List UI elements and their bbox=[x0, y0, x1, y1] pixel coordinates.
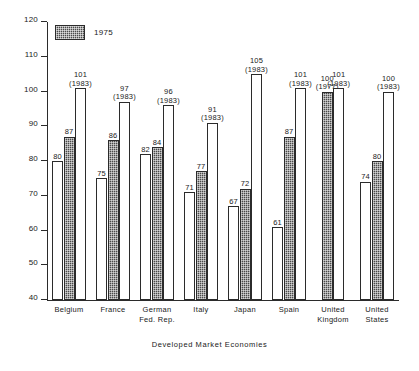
bar: 75 bbox=[96, 178, 107, 300]
y-tick-label: 60 bbox=[0, 224, 38, 233]
y-tick-label: 40 bbox=[0, 293, 38, 302]
bar-group: 828496(1983) bbox=[135, 22, 179, 300]
bar-group: 6187101(1983) bbox=[267, 22, 311, 300]
bar-value-label: 87 bbox=[65, 128, 74, 137]
category-label-spain: Spain bbox=[267, 305, 311, 315]
bar-value-label: 77 bbox=[197, 163, 206, 172]
category-label-line: France bbox=[91, 305, 135, 315]
bar-value-label: 96(1983) bbox=[157, 88, 180, 105]
bar-group: 8087101(1983) bbox=[47, 22, 91, 300]
bar-value-label: 91(1983) bbox=[201, 106, 224, 123]
x-axis-title: Developed Market Economies bbox=[0, 340, 419, 349]
y-tick-label: 90 bbox=[0, 119, 38, 128]
bar-value-label: 72 bbox=[241, 180, 250, 189]
bar-value-label: 61 bbox=[273, 219, 282, 228]
bar-value-label: 100(1983) bbox=[377, 75, 400, 92]
bar-group: 7480100(1983) bbox=[355, 22, 399, 300]
bar-value-label: 101(1983) bbox=[289, 71, 312, 88]
y-tick-label: 110 bbox=[0, 50, 38, 59]
bar-value-label: 80 bbox=[53, 153, 62, 162]
bar: 105(1983) bbox=[251, 74, 262, 300]
y-tick-label: 50 bbox=[0, 258, 38, 267]
bar: 100(1977) bbox=[322, 92, 333, 301]
bar: 96(1983) bbox=[163, 105, 174, 300]
category-label-france: France bbox=[91, 305, 135, 315]
category-label-line: Japan bbox=[223, 305, 267, 315]
category-label-line: Spain bbox=[267, 305, 311, 315]
bar: 67 bbox=[228, 206, 239, 300]
category-label-line: Belgium bbox=[47, 305, 91, 315]
bar-value-label: 84 bbox=[153, 139, 162, 148]
bar: 86 bbox=[108, 140, 119, 300]
bar-value-label: 87 bbox=[285, 128, 294, 137]
bar: 72 bbox=[240, 189, 251, 300]
bar-chart: 405060708090100110120 1975 8087101(1983)… bbox=[0, 0, 419, 371]
bar-value-label: 101(1983) bbox=[69, 71, 92, 88]
bar: 80 bbox=[372, 161, 383, 300]
category-label-line: United bbox=[355, 305, 399, 315]
bar: 61 bbox=[272, 227, 283, 300]
category-label-united-kingdom: UnitedKingdom bbox=[311, 305, 355, 324]
bar: 101(1983) bbox=[75, 88, 86, 300]
bar: 91(1983) bbox=[207, 123, 218, 300]
y-tick-label: 100 bbox=[0, 85, 38, 94]
bar-value-label: 80 bbox=[373, 153, 382, 162]
bar: 80 bbox=[52, 161, 63, 300]
category-label-italy: Italy bbox=[179, 305, 223, 315]
bar: 100(1983) bbox=[383, 92, 394, 301]
bar-value-label: 67 bbox=[229, 198, 238, 207]
bar-group: 758697(1983) bbox=[91, 22, 135, 300]
bar-group: 6772105(1983) bbox=[223, 22, 267, 300]
y-tick-label: 80 bbox=[0, 154, 38, 163]
bar: 97(1983) bbox=[119, 102, 130, 300]
plot-area: 8087101(1983)758697(1983)828496(1983)717… bbox=[47, 22, 399, 300]
bar: 74 bbox=[360, 182, 371, 300]
category-label-japan: Japan bbox=[223, 305, 267, 315]
category-label-belgium: Belgium bbox=[47, 305, 91, 315]
bar: 84 bbox=[152, 147, 163, 300]
bar-value-label: 74 bbox=[361, 173, 370, 182]
bar: 101(1983) bbox=[295, 88, 306, 300]
bar: 71 bbox=[184, 192, 195, 300]
bar-group: 717791(1983) bbox=[179, 22, 223, 300]
bar-value-label: 82 bbox=[141, 146, 150, 155]
bar-value-label: 86 bbox=[109, 132, 118, 141]
category-label-line: Fed. Rep. bbox=[135, 315, 179, 325]
bar-value-label: 105(1983) bbox=[245, 57, 268, 74]
x-axis-line bbox=[47, 300, 399, 301]
bar-value-label: 101(1983) bbox=[327, 71, 350, 88]
category-label-united-states: UnitedStates bbox=[355, 305, 399, 324]
y-tick-label: 120 bbox=[0, 15, 38, 24]
category-label-line: States bbox=[355, 315, 399, 325]
bar: 77 bbox=[196, 171, 207, 300]
bar: 101(1983) bbox=[333, 88, 344, 300]
category-label-line: United bbox=[311, 305, 355, 315]
bar-value-label: 75 bbox=[97, 170, 106, 179]
bar-value-label: 97(1983) bbox=[113, 85, 136, 102]
bar: 87 bbox=[64, 137, 75, 300]
y-tick-label: 70 bbox=[0, 189, 38, 198]
category-label-line: Italy bbox=[179, 305, 223, 315]
bar: 87 bbox=[284, 137, 295, 300]
category-label-line: Kingdom bbox=[311, 315, 355, 325]
category-label-line: German bbox=[135, 305, 179, 315]
bar-group: 100(1977)101(1983) bbox=[311, 22, 355, 300]
category-label-german-fed-rep: GermanFed. Rep. bbox=[135, 305, 179, 324]
bar: 82 bbox=[140, 154, 151, 300]
bar-value-label: 71 bbox=[185, 184, 194, 193]
